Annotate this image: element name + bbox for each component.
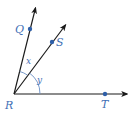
point-q [28,27,32,31]
label-r: R [4,99,13,112]
label-angle-x: x [26,56,31,66]
ray-rq [14,8,36,94]
label-q: Q [15,23,24,36]
point-s [50,40,54,44]
label-s: S [56,36,64,49]
point-t [103,92,107,96]
angle-diagram: Q S T R x y [0,0,135,115]
label-t: T [101,98,110,111]
label-angle-y: y [36,75,43,85]
angle-x-arc [20,72,28,76]
